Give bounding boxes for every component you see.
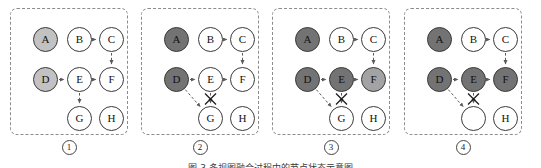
panel-index-2: 2	[141, 140, 259, 155]
circled-number: 3	[324, 140, 339, 155]
node-A: A	[295, 27, 320, 52]
node-A: A	[164, 27, 189, 52]
node-A: A	[427, 27, 452, 52]
node-G: G	[198, 106, 223, 131]
panel-index-4: 4	[404, 140, 522, 155]
edge-removed-x-E-G	[468, 94, 479, 105]
node-E: E	[198, 67, 223, 92]
panel-1: ABCDEFGH	[10, 8, 128, 135]
node-B: B	[67, 27, 92, 52]
node-D: D	[295, 67, 320, 92]
node-H: H	[493, 106, 518, 131]
node-B: B	[329, 27, 354, 52]
node-G: G	[67, 106, 92, 131]
node-C: C	[361, 27, 386, 52]
node-H: H	[230, 106, 255, 131]
node-F: F	[230, 67, 255, 92]
node-E: E	[67, 67, 92, 92]
node-F: F	[361, 67, 386, 92]
edge-D-to-G	[448, 90, 463, 107]
circled-number: 4	[456, 140, 471, 155]
figure-caption: 图 3 多视图融合过程中的节点状态示意图	[0, 163, 541, 168]
node-C: C	[99, 27, 124, 52]
node-A: A	[33, 27, 58, 52]
panel-4: ABCDEFH	[404, 8, 522, 135]
node-B: B	[198, 27, 223, 52]
edge-D-to-G	[316, 90, 331, 107]
node-F: F	[493, 67, 518, 92]
panel-2: ABCDEFGH	[141, 8, 259, 135]
node-D: D	[164, 67, 189, 92]
node-E: E	[329, 67, 354, 92]
edge-removed-x-E-G	[336, 94, 347, 105]
node-C: C	[230, 27, 255, 52]
panel-3: ABCDEFGH	[272, 8, 390, 135]
node-G: G	[329, 106, 354, 131]
node-F: F	[99, 67, 124, 92]
node-G	[461, 106, 486, 131]
node-D: D	[427, 67, 452, 92]
edge-removed-x-E-G	[205, 94, 216, 105]
edge-D-to-G	[185, 90, 200, 107]
node-D: D	[33, 67, 58, 92]
node-C: C	[493, 27, 518, 52]
node-B: B	[461, 27, 486, 52]
panel-index-1: 1	[10, 140, 128, 155]
node-H: H	[361, 106, 386, 131]
node-E: E	[461, 67, 486, 92]
circled-number: 1	[62, 140, 77, 155]
circled-number: 2	[193, 140, 208, 155]
figure-panels: ABCDEFGH1ABCDEFGH2ABCDEFGH3ABCDEFH4	[0, 0, 541, 168]
node-H: H	[99, 106, 124, 131]
panel-index-3: 3	[272, 140, 390, 155]
